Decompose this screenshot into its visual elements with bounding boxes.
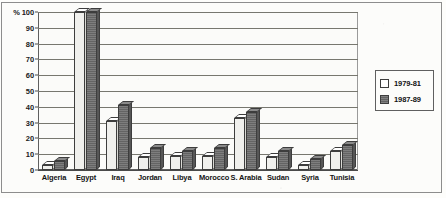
- bar: [278, 151, 289, 170]
- bar-side: [257, 108, 260, 170]
- bar-group: [38, 12, 70, 170]
- bar: [118, 105, 129, 170]
- plot-area: 0102030405060708090% 100: [38, 12, 358, 170]
- bar: [150, 148, 161, 170]
- legend-item: 1987-89: [380, 91, 433, 107]
- y-tick-label-30: 30: [26, 118, 34, 127]
- bar-face: [298, 165, 309, 170]
- bar: [266, 157, 277, 170]
- x-label-egypt: Egypt: [76, 173, 96, 182]
- bar: [234, 118, 245, 170]
- bar: [106, 121, 117, 170]
- bar: [170, 156, 181, 170]
- bar-side: [353, 141, 356, 170]
- bar-group: [134, 12, 166, 170]
- bar: [74, 12, 85, 170]
- bar-face: [86, 12, 97, 170]
- y-tick-label-0: 0: [30, 166, 34, 175]
- x-label-algeria: Algeria: [42, 173, 66, 182]
- bar: [310, 159, 321, 170]
- bar-face: [74, 12, 85, 170]
- bar-group: [102, 12, 134, 170]
- bar-group: [198, 12, 230, 170]
- x-label-jordan: Jordan: [138, 173, 162, 182]
- y-tick-label-50: 50: [26, 87, 34, 96]
- y-tick-label-70: 70: [26, 55, 34, 64]
- bar-side: [97, 8, 100, 170]
- x-label-sudan: Sudan: [267, 173, 289, 182]
- bar-face: [106, 121, 117, 170]
- bar-group: [166, 12, 198, 170]
- x-label-s-arabia: S. Arabia: [231, 173, 262, 182]
- bar-face: [234, 118, 245, 170]
- y-tick-label-20: 20: [26, 134, 34, 143]
- chart-figure: 0102030405060708090% 100 AlgeriaEgyptIra…: [0, 0, 446, 198]
- bar-group: [230, 12, 262, 170]
- y-tick-label-90: 90: [26, 23, 34, 32]
- bar: [246, 112, 257, 170]
- bar-face: [170, 156, 181, 170]
- y-tick-label-60: 60: [26, 71, 34, 80]
- bar-groups: [38, 12, 358, 170]
- bar-face: [182, 151, 193, 170]
- x-label-syria: Syria: [301, 173, 319, 182]
- bar-face: [266, 157, 277, 170]
- x-label-tunisia: Tunisia: [330, 173, 355, 182]
- bar-face: [54, 161, 65, 170]
- legend-label-1987-89: 1987-89: [394, 95, 421, 104]
- bar-group: [262, 12, 294, 170]
- bar-side: [225, 144, 228, 170]
- bar-face: [118, 105, 129, 170]
- x-label-libya: Libya: [173, 173, 192, 182]
- bar-face: [246, 112, 257, 170]
- bar-face: [278, 151, 289, 170]
- chart-legend: 1979-81 1987-89: [375, 70, 434, 111]
- y-tick-label-80: 80: [26, 39, 34, 48]
- gridline-0: [38, 170, 358, 171]
- legend-swatch-1987-89-icon: [380, 95, 389, 104]
- x-axis-labels: AlgeriaEgyptIraqJordanLibyaMoroccoS. Ara…: [38, 173, 358, 187]
- legend-item: 1979-81: [380, 75, 433, 91]
- bar-group: [70, 12, 102, 170]
- bar-face: [342, 145, 353, 170]
- bar-face: [310, 159, 321, 170]
- legend-swatch-1979-81-icon: [380, 79, 389, 88]
- legend-label-1979-81: 1979-81: [394, 79, 421, 88]
- y-tick-label-100: % 100: [13, 8, 34, 17]
- bar: [86, 12, 97, 170]
- bar-face: [42, 165, 53, 170]
- x-label-iraq: Iraq: [111, 173, 124, 182]
- bar-side: [129, 101, 132, 170]
- bar: [330, 151, 341, 170]
- bar: [298, 165, 309, 170]
- bar-face: [214, 148, 225, 170]
- bar: [138, 157, 149, 170]
- bar-face: [138, 157, 149, 170]
- bar: [214, 148, 225, 170]
- bar: [342, 145, 353, 170]
- bar-side: [161, 144, 164, 170]
- bar-face: [202, 156, 213, 170]
- bar-group: [294, 12, 326, 170]
- y-tick-label-40: 40: [26, 102, 34, 111]
- bar: [54, 161, 65, 170]
- bar-face: [330, 151, 341, 170]
- bar: [202, 156, 213, 170]
- bar-face: [150, 148, 161, 170]
- y-tick-label-10: 10: [26, 150, 34, 159]
- x-label-morocco: Morocco: [199, 173, 229, 182]
- bar: [182, 151, 193, 170]
- bar: [42, 165, 53, 170]
- bar-group: [326, 12, 358, 170]
